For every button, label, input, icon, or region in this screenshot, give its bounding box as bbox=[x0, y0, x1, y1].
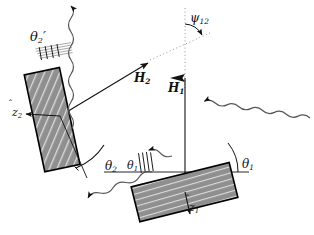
incident-wave-right bbox=[204, 99, 310, 120]
diagram-svg bbox=[0, 0, 314, 235]
z-hat-1-label: ̂ z1 bbox=[189, 202, 199, 215]
upper-left-slab bbox=[24, 67, 80, 171]
H2-label: H2 bbox=[134, 72, 151, 86]
psi-12-label: ψ12 bbox=[190, 12, 209, 26]
dotted-slant-reference bbox=[150, 32, 212, 60]
theta-2-label: θ2 bbox=[105, 160, 117, 174]
z-hat-2-label: ̂ z2 bbox=[12, 107, 22, 120]
H1-label: H1 bbox=[168, 82, 185, 96]
incident-wave-slab1-entry bbox=[148, 148, 172, 158]
theta-2-prime-label: θ2′ bbox=[30, 30, 46, 45]
figure-canvas: θ2′ θ2 θ1 θ1 ψ12 H2 H1 ̂ z2 ̂ z1 bbox=[0, 0, 314, 235]
theta-1-inner-fringe bbox=[139, 151, 154, 172]
theta-1-right-label: θ1 bbox=[242, 158, 254, 172]
theta-1-inner-label: θ1 bbox=[127, 160, 138, 173]
outgoing-wave-top bbox=[69, 6, 74, 130]
